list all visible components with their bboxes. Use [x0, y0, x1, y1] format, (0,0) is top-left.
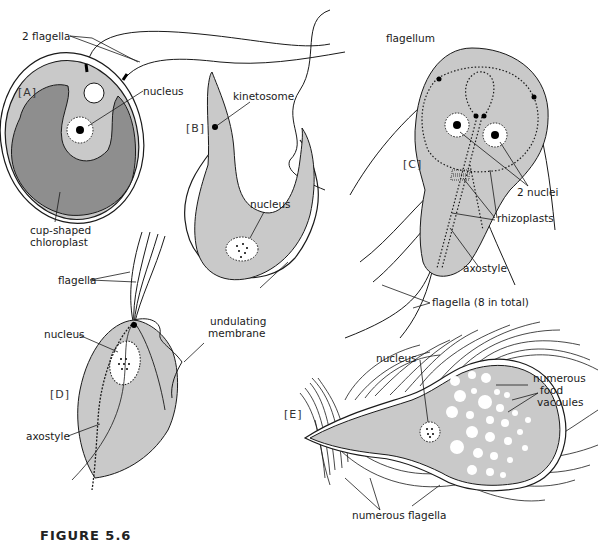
- label-d-undulating-2: membrane: [208, 327, 265, 339]
- nucleus-b: [226, 237, 258, 261]
- label-c-axostyle: axostyle: [463, 262, 507, 274]
- basal-body-d: [131, 322, 137, 328]
- figure-caption: FIGURE 5.6: [40, 528, 131, 543]
- flagellum-c-7: [400, 272, 432, 338]
- nucleus-e: [420, 422, 440, 442]
- vacuole-a: [84, 83, 104, 103]
- label-e-flagella: numerous flagella: [352, 509, 446, 521]
- tag-c: [C]: [403, 158, 422, 171]
- label-d-undulating-1: undulating: [210, 315, 266, 327]
- basal-body-a-1: [86, 64, 87, 72]
- label-d-flagella: flagella: [58, 274, 96, 286]
- tag-e: [E]: [284, 408, 303, 421]
- flagellum-c-6: [345, 272, 430, 338]
- tag-d: [D]: [50, 388, 70, 401]
- tag-b: [B]: [186, 122, 205, 135]
- flagellum-a-1: [88, 31, 330, 62]
- cell-b: [185, 10, 330, 288]
- label-c-nuclei: 2 nuclei: [517, 186, 558, 198]
- label-d-nucleus: nucleus: [44, 328, 85, 340]
- tag-a: [A]: [18, 86, 37, 99]
- label-a-nucleus: nucleus: [143, 85, 184, 97]
- label-c-rhizoplasts: rhizoplasts: [497, 212, 554, 224]
- label-b-nucleus: nucleus: [250, 198, 291, 210]
- flagellum-a-2: [125, 52, 345, 78]
- nucleolus-a: [76, 126, 84, 134]
- label-e-vacuoles-1: numerous: [533, 372, 586, 384]
- basal-body-a-2: [123, 74, 127, 80]
- label-b-kinetosome: kinetosome: [233, 90, 294, 102]
- label-c-flagella: flagella (8 in total): [432, 296, 529, 308]
- label-a-flagella: 2 flagella: [22, 30, 70, 42]
- cell-e: [300, 322, 598, 510]
- label-d-axostyle: axostyle: [26, 430, 70, 442]
- label-a-chloroplast-1: cup-shaped: [30, 224, 91, 236]
- label-e-nucleus: nucleus: [376, 352, 417, 364]
- label-e-vacuoles-2: food: [540, 384, 563, 396]
- label-a-chloroplast-2: chloroplast: [30, 236, 88, 248]
- cell-d: [68, 232, 204, 490]
- label-e-vacuoles-3: vacoules: [537, 396, 583, 408]
- label-b-flagellum: flagellum: [386, 32, 435, 44]
- cytoplasm-c: [415, 48, 548, 276]
